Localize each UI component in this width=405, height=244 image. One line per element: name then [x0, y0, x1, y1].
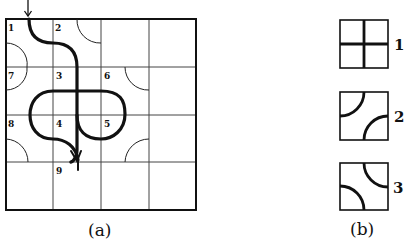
entry-arrow-icon: [25, 0, 32, 16]
cell-number: 5: [104, 119, 110, 129]
grid-lines: [6, 19, 196, 210]
cell-number: 9: [56, 166, 62, 176]
tile-1-cross: 1: [340, 20, 404, 68]
tile-3-arcs: 3: [340, 163, 403, 210]
cell-number: 7: [8, 71, 14, 81]
tile-2-arcs: 2: [340, 92, 404, 140]
tile-label: 3: [393, 179, 403, 197]
cell-number: 2: [55, 23, 61, 33]
figure-a: 1 2 7 3 6 8 4 5 9 (a): [6, 0, 196, 240]
cell-number: 6: [104, 71, 110, 81]
tile-label: 1: [394, 36, 404, 54]
figure-b-label: (b): [350, 219, 374, 239]
traversal-path: [29, 19, 125, 162]
cell-number: 4: [56, 119, 62, 129]
figure-b: 1 2 3 (b): [340, 20, 404, 239]
cell-number: 3: [56, 71, 62, 81]
figure-a-label: (a): [88, 220, 111, 240]
cell-number: 1: [8, 23, 14, 33]
cell-number: 8: [8, 119, 14, 129]
tile-label: 2: [394, 108, 404, 126]
diagram-canvas: 1 2 7 3 6 8 4 5 9 (a) 1 2: [0, 0, 405, 244]
cell-numbers: 1 2 7 3 6 8 4 5 9: [8, 23, 110, 176]
